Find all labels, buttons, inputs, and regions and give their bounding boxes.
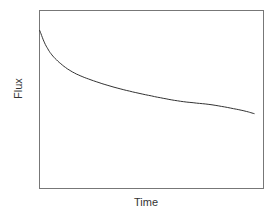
- flux-curve: [40, 30, 255, 114]
- flux-time-chart: [0, 0, 275, 219]
- plot-frame: [40, 11, 264, 189]
- x-axis-label: Time: [126, 196, 166, 208]
- y-axis-label: Flux: [8, 79, 28, 99]
